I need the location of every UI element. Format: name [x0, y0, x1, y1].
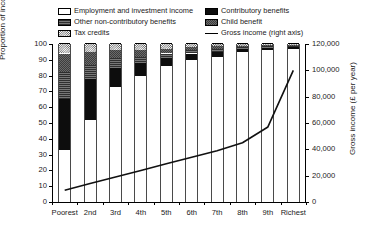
y-tick-label-right: 20,000 [312, 172, 335, 180]
y-tick-right [306, 97, 309, 98]
legend-swatch-other-non-contributory-benefits [58, 19, 71, 26]
legend-swatch-tax-credits [58, 30, 71, 37]
legend-item: Child benefit [205, 17, 303, 27]
x-tick-label: 2nd [84, 208, 97, 217]
y-axis-label-right: Gross income (£ per year) [348, 62, 357, 155]
legend-label: Employment and investment income [74, 7, 193, 15]
legend-column-left: Employment and investment income Other n… [58, 6, 193, 39]
legend-label: Other non-contributory benefits [74, 18, 176, 26]
x-tick [306, 202, 307, 205]
y-tick-label-left: 30 [39, 151, 47, 159]
x-tick [128, 202, 129, 205]
y-tick-label-left: 10 [39, 182, 47, 190]
y-tick-label-left: 20 [39, 166, 47, 174]
x-tick [77, 202, 78, 205]
y-axis-label-left: Proportion of income (%) [0, 0, 7, 60]
x-tick-label: Richest [281, 208, 306, 217]
y-tick-label-right: 120,000 [312, 40, 339, 48]
y-tick-label-right: 80,000 [312, 93, 335, 101]
y-tick-label-left: 40 [39, 135, 47, 143]
x-tick [204, 202, 205, 205]
x-tick [179, 202, 180, 205]
x-tick [281, 202, 282, 205]
gross-income-line [52, 44, 306, 202]
legend-swatch-child-benefit [205, 19, 218, 26]
chart-legend: Employment and investment income Other n… [58, 6, 358, 38]
legend-column-right: Contributory benefits Child benefit Gros… [205, 6, 303, 39]
legend-item: Other non-contributory benefits [58, 17, 193, 27]
y-tick-label-left: 90 [39, 56, 47, 64]
legend-item: Gross income (right axis) [205, 28, 303, 38]
x-tick-label: 7th [212, 208, 223, 217]
x-tick [154, 202, 155, 205]
y-tick-right [306, 149, 309, 150]
y-tick-label-right: 0 [312, 198, 316, 206]
x-tick-label: 6th [186, 208, 197, 217]
x-tick-label: 4th [136, 208, 147, 217]
x-tick [230, 202, 231, 205]
x-tick-label: 5th [161, 208, 172, 217]
legend-swatch-contributory-benefits [205, 8, 218, 15]
legend-label: Tax credits [74, 29, 109, 37]
x-tick-label: 3rd [110, 208, 121, 217]
legend-item: Employment and investment income [58, 6, 193, 16]
x-tick-label: 8th [237, 208, 248, 217]
legend-label: Contributory benefits [221, 7, 289, 15]
y-tick-label-left: 50 [39, 119, 47, 127]
y-tick-right [306, 176, 309, 177]
y-tick-right [306, 70, 309, 71]
y-tick-label-left: 60 [39, 103, 47, 111]
y-tick-label-left: 80 [39, 72, 47, 80]
y-tick-label-left: 0 [43, 198, 47, 206]
legend-swatch-employment-and-investment-income [58, 8, 71, 15]
y-tick-right [306, 123, 309, 124]
legend-item: Contributory benefits [205, 6, 303, 16]
chart-figure: Employment and investment income Other n… [0, 0, 370, 235]
legend-swatch-gross-income-line [205, 30, 218, 37]
y-tick-right [306, 44, 309, 45]
legend-label: Child benefit [221, 18, 262, 26]
y-tick-label-left: 100 [34, 40, 47, 48]
y-tick-label-left: 70 [39, 87, 47, 95]
x-tick [103, 202, 104, 205]
line-path [65, 70, 294, 190]
legend-item: Tax credits [58, 28, 193, 38]
legend-label: Gross income (right axis) [221, 29, 303, 37]
y-tick-label-right: 60,000 [312, 119, 335, 127]
y-tick-label-right: 100,000 [312, 66, 339, 74]
plot-area: 0102030405060708090100 020,00040,00060,0… [52, 44, 306, 202]
x-tick [52, 202, 53, 205]
x-tick-label: Poorest [52, 208, 78, 217]
x-tick-label: 9th [263, 208, 274, 217]
x-tick [255, 202, 256, 205]
y-tick-label-right: 40,000 [312, 145, 335, 153]
